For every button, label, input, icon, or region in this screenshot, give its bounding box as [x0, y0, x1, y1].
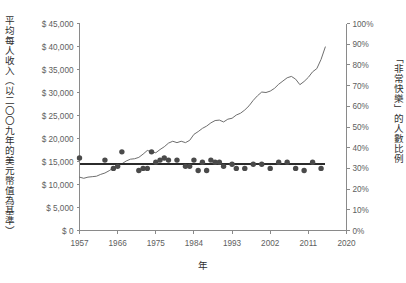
x-axis-tick-label: 1957 — [70, 239, 89, 248]
y-axis-right-tick-label: 0% — [353, 227, 365, 236]
happiness-data-point — [276, 159, 281, 164]
happiness-data-point — [204, 168, 209, 173]
y-axis-left-tick-label: $ 20,000 — [42, 135, 74, 144]
happiness-data-point — [166, 157, 171, 162]
happiness-income-chart: 平均每人收入（以二〇〇九年的美元幣值為基準） 「非常快樂」的人數比例 年 $ 0… — [0, 0, 406, 283]
x-axis-tick-label: 2020 — [337, 239, 356, 248]
happiness-data-point — [301, 168, 306, 173]
x-axis-tick-label: 2002 — [261, 239, 280, 248]
y-axis-left-tick-label: $ 35,000 — [42, 66, 74, 75]
happiness-data-point — [191, 157, 196, 162]
y-axis-left-tick-label: $ 25,000 — [42, 112, 74, 121]
happiness-data-point — [242, 166, 247, 171]
y-axis-right-tick-label: 50% — [353, 123, 369, 132]
happiness-data-point — [229, 162, 234, 167]
y-axis-right-tick-label: 100% — [353, 20, 374, 29]
happiness-data-point — [221, 164, 226, 169]
y-axis-right-tick-label: 90% — [353, 40, 369, 49]
income-line-path — [80, 47, 326, 178]
y-axis-right-tick-label: 10% — [353, 206, 369, 215]
income-series — [80, 47, 326, 178]
happiness-data-point — [251, 162, 256, 167]
happiness-data-point — [284, 159, 289, 164]
happiness-data-point — [217, 159, 222, 164]
axis-lines — [77, 24, 350, 234]
happiness-data-point — [174, 157, 179, 162]
y-axis-left-tick-label: $ 45,000 — [42, 20, 74, 29]
y-axis-left-tick-label: $ 30,000 — [42, 89, 74, 98]
happiness-data-point — [318, 166, 323, 171]
happiness-data-point — [102, 157, 107, 162]
y-axis-left-tick-label: $ 40,000 — [42, 43, 74, 52]
happiness-data-point — [234, 166, 239, 171]
y-axis-right-tick-label: 30% — [353, 164, 369, 173]
happiness-data-point — [145, 166, 150, 171]
happiness-data-point — [187, 164, 192, 169]
x-axis-tick-label: 1975 — [147, 239, 166, 248]
y-axis-right-tick-label: 70% — [353, 82, 369, 91]
y-axis-right-tick-labels: 0%10%20%30%40%50%60%70%80%90%100% — [353, 20, 374, 236]
plot-area: $ 0$ 5,000$ 10,000$ 15,000$ 20,000$ 25,0… — [0, 0, 406, 283]
x-axis-tick-label: 1966 — [109, 239, 128, 248]
y-axis-right-tick-label: 20% — [353, 185, 369, 194]
y-axis-left-tick-label: $ 10,000 — [42, 181, 74, 190]
x-axis-tick-label: 2011 — [300, 239, 318, 248]
happiness-data-point — [310, 159, 315, 164]
happiness-data-point — [268, 166, 273, 171]
y-axis-left-tick-labels: $ 0$ 5,000$ 10,000$ 15,000$ 20,000$ 25,0… — [42, 20, 74, 236]
happiness-data-point — [259, 162, 264, 167]
y-axis-left-tick-label: $ 0 — [62, 227, 74, 236]
happiness-data-point — [119, 149, 124, 154]
happiness-data-point — [115, 164, 120, 169]
y-axis-left-tick-label: $ 5,000 — [46, 204, 74, 213]
y-axis-right-tick-label: 60% — [353, 102, 369, 111]
happiness-data-point — [293, 166, 298, 171]
x-axis-tick-label: 1993 — [223, 239, 242, 248]
y-axis-right-tick-label: 40% — [353, 144, 369, 153]
happiness-data-point — [200, 159, 205, 164]
happiness-data-point — [195, 168, 200, 173]
happiness-scatter-series — [77, 149, 324, 173]
happiness-data-point — [77, 155, 82, 160]
y-axis-right-tick-label: 80% — [353, 61, 369, 70]
happiness-data-point — [149, 149, 154, 154]
x-axis-tick-label: 1984 — [185, 239, 204, 248]
y-axis-left-tick-label: $ 15,000 — [42, 158, 74, 167]
x-axis-tick-labels: 19571966197519841993200220112020 — [70, 239, 356, 248]
